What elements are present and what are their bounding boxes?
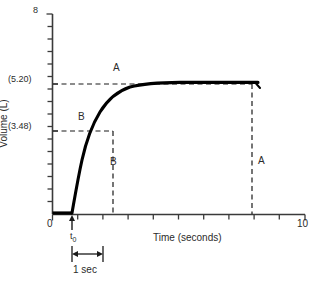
annotation-b-vertical: B bbox=[110, 156, 117, 167]
x-axis-title: Time (seconds) bbox=[153, 232, 222, 243]
t-zero-marker bbox=[69, 215, 75, 230]
annotation-a-vertical: A bbox=[258, 155, 265, 166]
y-axis-ticks bbox=[47, 14, 53, 202]
y-axis-value-label-a: (5.20) bbox=[8, 74, 32, 84]
t-zero-subscript: 0 bbox=[73, 236, 77, 243]
one-second-scalebar bbox=[72, 246, 103, 262]
y-value-tick-stubs bbox=[53, 84, 59, 131]
x-axis-max-label: 10 bbox=[297, 218, 308, 229]
annotation-a-horizontal: A bbox=[113, 62, 120, 73]
annotation-b-horizontal: B bbox=[78, 111, 85, 122]
t-zero-label: t0 bbox=[70, 231, 76, 243]
y-axis-title: Volume (L) bbox=[0, 99, 9, 147]
volume-time-curve bbox=[72, 82, 258, 213]
x-axis-ticks bbox=[53, 215, 306, 221]
x-axis-min-label: 0 bbox=[47, 218, 53, 229]
y-axis-max-label: 8 bbox=[33, 5, 38, 15]
y-axis-value-label-b: (3.48) bbox=[8, 121, 32, 131]
scalebar-label: 1 sec bbox=[73, 264, 97, 275]
spirometry-volume-time-chart: 8 (5.20) (3.48) Volume (L) 0 10 Time (se… bbox=[0, 0, 327, 283]
